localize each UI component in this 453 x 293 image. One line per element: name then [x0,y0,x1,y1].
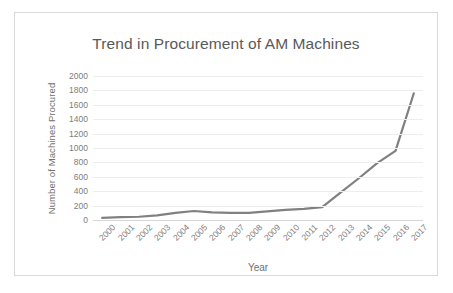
x-axis-tick-label: 2014 [354,223,373,242]
gridline [93,206,423,207]
x-axis-tick-label: 2007 [226,223,245,242]
x-axis-tick-label: 2017 [409,223,428,242]
y-axis-tick-label: 1200 [69,129,88,138]
x-axis-tick-label: 2006 [208,223,227,242]
x-axis-tick-label: 2003 [153,223,172,242]
x-axis-tick-label: 2008 [244,223,263,242]
chart-container: Trend in Procurement of AM Machines Numb… [14,12,438,276]
x-axis-tick-label: 2010 [281,223,300,242]
y-axis-tick-label: 1000 [69,144,88,153]
x-axis-tick-labels: 2000200120022003200420052006200720082009… [93,223,423,257]
x-axis-tick-label: 2004 [171,223,190,242]
gridline [93,162,423,163]
series-line-procurement [102,93,414,218]
plot-area: 0200400600800100012001400160018002000 [93,76,423,220]
gridline [93,148,423,149]
y-axis-title-label: Number of Machines Procured [47,82,58,214]
x-axis-tick-label: 2011 [300,223,319,242]
gridline [93,90,423,91]
y-axis-tick-label: 400 [74,187,88,196]
x-axis-tick-label: 2001 [116,223,135,242]
x-axis-tick-label: 2012 [318,223,337,242]
x-axis-tick-label: 2005 [189,223,208,242]
gridline [93,177,423,178]
chart-title: Trend in Procurement of AM Machines [15,35,437,53]
y-axis-tick-label: 1800 [69,86,88,95]
x-axis-tick-label: 2016 [391,223,410,242]
x-axis-tick-label: 2000 [98,223,117,242]
x-axis-tick-label: 2015 [373,223,392,242]
y-axis-tick-label: 200 [74,201,88,210]
y-axis-tick-label: 2000 [69,72,88,81]
x-axis-title: Year [93,262,423,273]
gridline [93,105,423,106]
x-axis-tick-label: 2002 [134,223,153,242]
y-axis-title: Number of Machines Procured [45,76,59,220]
y-axis-tick-label: 0 [83,216,88,225]
y-axis-tick-label: 1600 [69,101,88,110]
y-axis-tick-label: 800 [74,158,88,167]
y-axis-tick-label: 600 [74,173,88,182]
x-axis-tick-label: 2009 [263,223,282,242]
x-axis-line [93,220,423,221]
gridline [93,134,423,135]
gridline [93,76,423,77]
gridline [93,191,423,192]
gridline [93,119,423,120]
x-axis-tick-label: 2013 [336,223,355,242]
y-axis-tick-label: 1400 [69,115,88,124]
